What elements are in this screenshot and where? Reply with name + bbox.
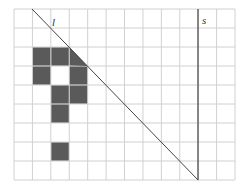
filled-cell <box>51 105 68 123</box>
filled-cell <box>51 48 68 66</box>
filled-cell <box>51 143 68 161</box>
filled-cell <box>33 67 50 85</box>
label-l: l <box>52 16 55 28</box>
label-s: s <box>202 14 206 26</box>
diagram-canvas: l s <box>0 0 244 192</box>
filled-cell <box>33 48 50 66</box>
grid <box>14 9 235 180</box>
filled-cell <box>51 86 68 104</box>
filled-cell <box>70 67 87 85</box>
filled-cell <box>70 86 87 104</box>
